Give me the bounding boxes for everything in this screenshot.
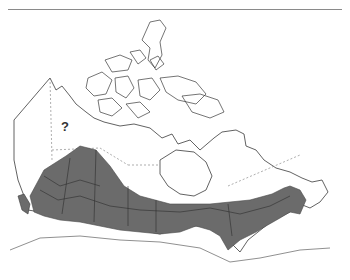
southern-border bbox=[10, 236, 330, 262]
unknown-range-marker: ? bbox=[61, 119, 69, 134]
canada-map bbox=[0, 0, 350, 280]
vancouver-island bbox=[18, 194, 30, 214]
arctic-islands bbox=[86, 20, 224, 118]
hudson-bay bbox=[160, 150, 212, 196]
